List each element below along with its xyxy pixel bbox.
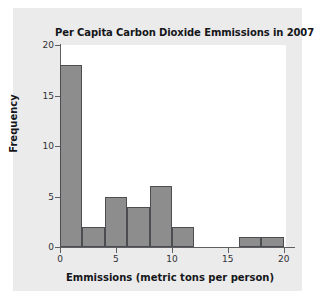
histogram-bar [127,207,149,247]
x-tick-mark [284,248,285,253]
y-tick-mark [55,45,60,46]
x-tick-label: 0 [45,254,75,264]
x-tick-label: 20 [269,254,299,264]
histogram-bar [150,186,172,247]
x-tick-label: 15 [213,254,243,264]
y-tick-label: 10 [20,141,54,151]
x-axis-line [60,247,295,248]
histogram-bar [172,227,194,247]
histogram-bar [261,237,283,247]
x-tick-mark [228,248,229,253]
y-axis-title: Frequency [8,74,19,174]
histogram-bar [82,227,104,247]
histogram-bar [60,65,82,247]
x-tick-label: 10 [157,254,187,264]
x-tick-mark [116,248,117,253]
chart-figure: Per Capita Carbon Dioxide Emmissions in … [0,0,315,303]
x-axis-title: Emmissions (metric tons per person) [40,272,300,283]
x-tick-label: 5 [101,254,131,264]
histogram-bar [239,237,261,247]
histogram-bar [105,197,127,248]
chart-title: Per Capita Carbon Dioxide Emmissions in … [55,27,303,38]
y-tick-label: 0 [20,242,54,252]
x-tick-mark [60,248,61,253]
y-tick-label: 5 [20,192,54,202]
y-tick-label: 20 [20,40,54,50]
plot-area-background [60,45,286,248]
y-tick-label: 15 [20,91,54,101]
x-tick-mark [172,248,173,253]
